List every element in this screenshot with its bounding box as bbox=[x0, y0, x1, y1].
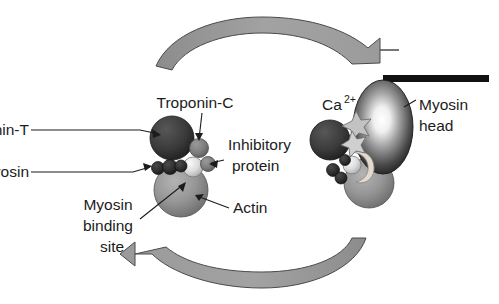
label-calcium-ion: Ca bbox=[322, 96, 342, 113]
troponin-t-sphere bbox=[150, 116, 194, 160]
tropomyosin-bead-right-2 bbox=[335, 172, 347, 184]
right-activated-complex bbox=[310, 75, 489, 208]
label-myosin-head-line2: head bbox=[419, 117, 453, 134]
arrowhead-tropomyosin bbox=[143, 163, 152, 171]
label-calcium-ion-charge: 2+ bbox=[344, 93, 356, 105]
label-myosin-binding-site-line3: site bbox=[100, 238, 124, 255]
label-inhibitory-protein-line1: Inhibitory bbox=[228, 136, 291, 153]
left-thin-filament-complex bbox=[150, 116, 216, 217]
label-myosin-binding-site-line2: binding bbox=[83, 217, 133, 234]
top-cycle-arrow bbox=[156, 17, 399, 70]
label-actin: Actin bbox=[233, 199, 267, 216]
label-inhibitory-protein-line2: protein bbox=[232, 157, 279, 174]
label-troponin-c: Troponin-C bbox=[157, 94, 234, 111]
tropomyosin-bead-right-3 bbox=[340, 155, 351, 166]
leader-troponin-t bbox=[31, 130, 159, 134]
label-myosin-binding-site-line1: Myosin bbox=[83, 196, 132, 213]
label-myosin-head-line1: Myosin bbox=[419, 96, 468, 113]
diagram-canvas: Troponin-T Troponin-C Tropomyosin Inhibi… bbox=[0, 0, 499, 304]
myosin-tail-rod bbox=[383, 75, 489, 82]
bottom-cycle-arrow bbox=[120, 238, 366, 288]
label-tropomyosin: Tropomyosin bbox=[0, 163, 29, 180]
tropomyosin-bead-3 bbox=[175, 160, 187, 172]
leader-tropomyosin bbox=[31, 167, 150, 172]
troponin-c-sphere bbox=[190, 139, 209, 158]
label-troponin-t: Troponin-T bbox=[0, 121, 30, 138]
